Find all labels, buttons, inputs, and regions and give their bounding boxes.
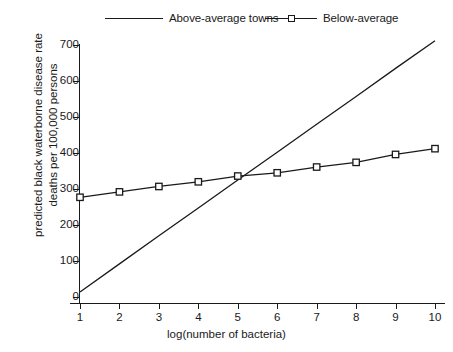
y-axis-title: predicted black waterborne disease rate … [31,5,61,265]
series-below-average [77,145,438,200]
chart-series-layer [0,0,453,352]
series-marker-point [313,164,319,170]
series-marker-point [392,151,398,157]
y-axis-title-line-2: deaths per 100,000 persons [46,5,61,265]
series-marker-point [432,145,438,151]
series-marker-point [235,173,241,179]
chart-figure: Above-average towns Below-average 010020… [0,0,453,352]
series-marker-point [156,183,162,189]
x-axis-title: log(number of bacteria) [0,328,453,340]
series-above-average-towns [80,41,435,292]
y-axis-title-line-1: predicted black waterborne disease rate [31,5,46,265]
series-marker-point [353,159,359,165]
series-marker-point [274,170,280,176]
series-marker-point [77,194,83,200]
series-marker-point [116,189,122,195]
series-marker-point [195,179,201,185]
series-line [80,149,435,198]
series-line [80,41,435,292]
